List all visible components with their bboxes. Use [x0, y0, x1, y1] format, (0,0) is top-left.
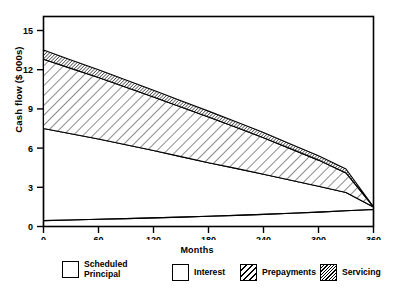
legend-label-servicing: Servicing: [342, 268, 381, 278]
ytick-3: 3: [28, 183, 33, 193]
xtick-300: 300: [311, 235, 326, 240]
legend-swatch-prepayments: [240, 264, 257, 281]
legend-item-prepayments[interactable]: Prepayments: [240, 264, 316, 281]
y-axis-tick-labels: 0 3 6 9 12 15: [23, 26, 33, 232]
y-axis-title: Cash flow ($ 000s): [13, 20, 24, 160]
chart-area: 0 3 6 9 12 15 0 60 120 180: [0, 0, 394, 240]
ytick-15: 15: [23, 26, 33, 36]
xtick-240: 240: [256, 235, 271, 240]
legend-label-interest: Interest: [194, 268, 225, 278]
x-axis-ticks: [44, 227, 374, 234]
cash-flow-stacked-area-chart: 0 3 6 9 12 15 0 60 120 180: [0, 0, 394, 240]
legend-label-prepayments: Prepayments: [262, 268, 316, 278]
legend-item-interest[interactable]: Interest: [172, 264, 225, 281]
xtick-60: 60: [93, 235, 103, 240]
legend-item-servicing[interactable]: Servicing: [320, 264, 381, 281]
chart-legend: Scheduled Principal Interest Prepayments…: [0, 258, 394, 286]
legend-swatch-servicing: [320, 264, 337, 281]
legend-label-scheduled-principal: Scheduled Principal: [84, 260, 127, 279]
xtick-360: 360: [366, 235, 381, 240]
chart-page: 0 3 6 9 12 15 0 60 120 180: [0, 0, 394, 290]
legend-swatch-scheduled-principal: [62, 261, 79, 278]
x-axis-tick-labels: 0 60 120 180 240 300 360: [41, 235, 381, 240]
x-axis-title: Months: [0, 245, 394, 255]
ytick-0: 0: [28, 222, 33, 232]
legend-swatch-interest: [172, 264, 189, 281]
xtick-180: 180: [201, 235, 216, 240]
ytick-12: 12: [23, 65, 33, 75]
legend-item-scheduled-principal[interactable]: Scheduled Principal: [62, 260, 127, 279]
ytick-9: 9: [28, 104, 33, 114]
y-axis-ticks: [37, 31, 44, 227]
xtick-120: 120: [146, 235, 161, 240]
ytick-6: 6: [28, 144, 33, 154]
xtick-0: 0: [41, 235, 46, 240]
